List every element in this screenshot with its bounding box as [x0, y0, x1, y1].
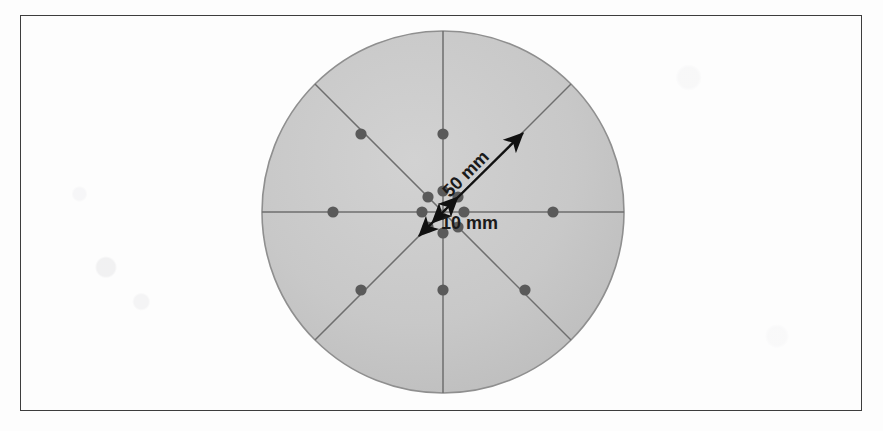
- marker-dot: [437, 284, 448, 295]
- marker-dot: [327, 206, 338, 217]
- marker-dot: [437, 128, 448, 139]
- label-10mm: 10 mm: [441, 213, 498, 233]
- marker-dot: [416, 206, 427, 217]
- circular-specimen-diagram: 50 mm 10 mm: [0, 0, 883, 431]
- figure-root: 50 mm 10 mm: [0, 0, 883, 431]
- marker-dot: [422, 191, 433, 202]
- marker-dot: [519, 284, 530, 295]
- marker-dot: [547, 206, 558, 217]
- marker-dot: [355, 128, 366, 139]
- marker-dot: [355, 284, 366, 295]
